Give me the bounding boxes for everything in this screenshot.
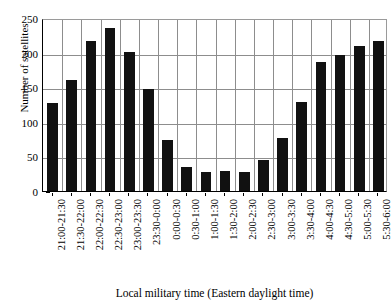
bar [201,172,212,191]
y-tick-label: 0 [8,187,38,198]
x-tick-mark [90,193,91,196]
bar [105,28,116,191]
y-tick-label: 150 [8,83,38,94]
x-tick-label: 23:00-23:30 [132,199,143,250]
x-tick-mark [147,193,148,196]
bar [239,172,250,191]
y-axis-tick-labels: 050100150200250 [8,14,38,194]
bar [162,140,173,191]
x-tick-label: 5:00-5:30 [362,199,373,240]
y-tick-label: 50 [8,152,38,163]
y-tick-label: 250 [8,14,38,25]
bar [277,138,288,191]
x-tick-label: 3:00-3:30 [286,199,297,240]
x-tick-mark [71,193,72,196]
x-tick-label: 21:30-22:00 [75,199,86,250]
bar [220,171,231,191]
bar [296,102,307,191]
x-tick-label: 22:00-22:30 [94,199,105,250]
x-tick-mark [358,193,359,196]
x-tick-label: 2:00-2:30 [247,199,258,240]
x-tick-mark [109,193,110,196]
x-tick-label: 4:00-4:30 [324,199,335,240]
bar [66,80,77,191]
x-tick-label: 23:30-0:00 [151,199,162,245]
x-tick-label: 21:00-21:30 [56,199,67,250]
x-tick-mark [167,193,168,196]
bar [373,41,384,191]
plot-area [42,19,387,192]
x-tick-mark [377,193,378,196]
x-tick-mark [339,193,340,196]
bar [335,55,346,191]
x-tick-mark [243,193,244,196]
x-tick-mark [128,193,129,196]
x-tick-label: 0:30-1:00 [190,199,201,240]
x-tick-label: 2:30-3:00 [266,199,277,240]
x-tick-mark [224,193,225,196]
x-tick-label: 1:30-2:00 [228,199,239,240]
x-tick-label: 5:30-6:00 [381,199,392,240]
x-tick-mark [52,193,53,196]
x-axis-title: Local military time (Eastern daylight ti… [42,287,387,300]
bar [181,167,192,191]
bar [86,41,97,191]
bar-series [43,20,386,191]
x-tick-label: 22:30-23:00 [113,199,124,250]
satellites-bar-chart: Number of satellites 050100150200250 21:… [0,0,392,308]
bar [47,103,58,191]
y-tick-label: 100 [8,117,38,128]
bar [124,52,135,191]
x-tick-label: 1:00-1:30 [209,199,220,240]
bar [258,160,269,191]
x-tick-label: 3:30-4:00 [305,199,316,240]
y-tick-label: 200 [8,48,38,59]
bar [354,46,365,191]
bar [143,89,154,191]
x-axis-tick-labels: 21:00-21:3021:30-22:0022:00-22:3022:30-2… [42,193,387,279]
x-tick-mark [205,193,206,196]
x-tick-mark [262,193,263,196]
x-tick-mark [282,193,283,196]
bar [316,62,327,191]
x-tick-label: 4:30-5:00 [343,199,354,240]
x-tick-mark [186,193,187,196]
x-tick-mark [301,193,302,196]
x-tick-label: 0:00-0:30 [171,199,182,240]
x-tick-mark [320,193,321,196]
